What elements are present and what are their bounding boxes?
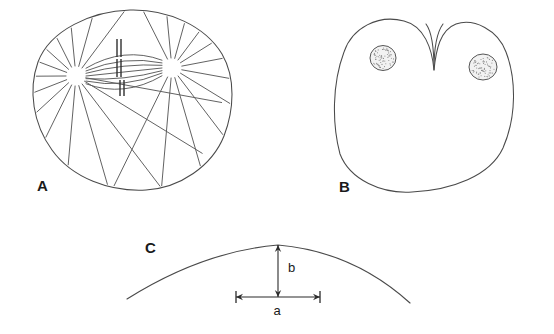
nucleus-stipple-dot xyxy=(479,68,480,69)
surface-arc xyxy=(127,245,410,303)
nucleus-stipple-dot xyxy=(377,52,378,53)
nucleus-stipple-dot xyxy=(393,58,394,59)
nucleus-stipple-dot xyxy=(475,61,476,62)
aster-ray xyxy=(182,70,229,79)
nucleus-stipple-dot xyxy=(381,55,382,56)
panel-label-c: C xyxy=(145,239,156,256)
nucleus-stipple-dot xyxy=(483,58,484,59)
aster-ray xyxy=(144,12,168,59)
nucleus-stipple-dot xyxy=(390,54,391,55)
nucleus-stipple-dot xyxy=(478,74,479,75)
nucleus-stipple-dot xyxy=(482,70,483,71)
panel-c-group: b a C xyxy=(127,239,410,318)
nucleus-stipple-dot xyxy=(487,64,488,65)
nucleus-stipple-dot xyxy=(475,65,476,66)
nucleus-stipple-dot xyxy=(379,67,380,68)
panel-a-group: A xyxy=(33,10,232,194)
nucleus-stipple-dot xyxy=(374,54,375,55)
nucleus-stipple-dot xyxy=(388,50,389,51)
nucleus-stipple-dot xyxy=(489,72,490,73)
nucleus-stipple-dot xyxy=(390,65,391,66)
aster-ray xyxy=(114,77,168,186)
nucleus-stipple-dot xyxy=(380,59,381,60)
nucleus-stipple-dot xyxy=(492,60,493,61)
nucleus-stipple-dot xyxy=(480,72,481,73)
nucleus-stipple-dot xyxy=(378,56,379,57)
nucleus-stipple-dot xyxy=(384,56,385,57)
nucleus-stipple-dot xyxy=(490,66,491,67)
nucleus-stipple-dot xyxy=(379,60,380,61)
aster-ray xyxy=(68,86,75,165)
nucleus-stipple-dot xyxy=(484,71,485,72)
nucleus-stipple-dot xyxy=(387,57,388,58)
nucleus-stipple-dot xyxy=(386,48,387,49)
nucleus-stipple-dot xyxy=(486,61,487,62)
nucleus-stipple-dot xyxy=(384,66,385,67)
aster-ray xyxy=(57,39,71,68)
nucleus-stipple-dot xyxy=(374,53,375,54)
nucleus-stipple-dot xyxy=(477,63,478,64)
nucleus-stipple-dot xyxy=(381,58,382,59)
nucleus-stipple-dot xyxy=(388,52,389,53)
aster-ray xyxy=(182,58,222,66)
dimension-label-a: a xyxy=(273,303,281,318)
nucleus-stipple-dot xyxy=(481,67,482,68)
nucleus-stipple-dot xyxy=(483,71,484,72)
nucleus-stipple-dot xyxy=(386,49,387,50)
panel-label-b: B xyxy=(339,178,350,195)
nucleus-stipple-dot xyxy=(487,65,488,66)
nucleus-stipple-dot xyxy=(472,70,473,71)
cleavage-furrow xyxy=(426,24,443,70)
nucleus-stipple-dot xyxy=(374,64,375,65)
nucleus-stipple-dot xyxy=(389,56,390,57)
nucleus-stipple-dot xyxy=(483,63,484,64)
nucleus-stipple-dot xyxy=(376,63,377,64)
figure-container: A B b a C xyxy=(0,0,554,334)
panel-label-a: A xyxy=(37,177,48,194)
aster-ray xyxy=(175,78,201,166)
nucleus-stipple-dot xyxy=(391,58,392,59)
nucleus-stipple-dot xyxy=(389,63,390,64)
nucleus-stipple-dot xyxy=(492,73,493,74)
nucleus-stipple-dot xyxy=(390,51,391,52)
dimension-label-b: b xyxy=(288,260,295,275)
nucleus-stipple-dot xyxy=(384,61,385,62)
nucleus-stipple-dot xyxy=(493,69,494,70)
aster-ray xyxy=(85,81,203,153)
aster-ray xyxy=(162,78,171,186)
nucleus-stipple-dot xyxy=(490,67,491,68)
nucleus-stipple-dot xyxy=(375,50,376,51)
aster-right-rays xyxy=(114,12,230,186)
nucleus-stipple-dot xyxy=(385,63,386,64)
nucleus-stipple-dot xyxy=(383,49,384,50)
figure-canvas: A B b a C xyxy=(0,0,554,334)
nucleus-stipple-dot xyxy=(375,59,376,60)
nucleus-stipple-dot xyxy=(491,63,492,64)
nucleus-stipple-dot xyxy=(383,60,384,61)
nucleus-stipple-dot xyxy=(484,76,485,77)
nucleus-stipple-dot xyxy=(489,75,490,76)
nucleus-stipple-dot xyxy=(473,62,474,63)
aster-left-rays xyxy=(35,12,222,186)
nucleus-stipple-dot xyxy=(378,65,379,66)
dimension-b-group xyxy=(275,245,281,297)
aster-ray xyxy=(86,78,222,103)
nucleus-stipple-dot xyxy=(484,69,485,70)
aster-ray xyxy=(71,28,75,66)
nucleus-stipple-dot xyxy=(383,47,384,48)
aster-ray xyxy=(79,19,92,67)
aster-ray xyxy=(37,83,69,112)
nucleus-stipple-dot xyxy=(385,50,386,51)
nucleus-stipple-dot xyxy=(387,54,388,55)
nucleus-stipple-dot xyxy=(388,55,389,56)
nucleus-stipple-dot xyxy=(375,57,376,58)
nucleus-stipple-dot xyxy=(474,66,475,67)
nucleus-stipple-dot xyxy=(484,68,485,69)
nucleus-stipple-dot xyxy=(380,57,381,58)
aster-ray xyxy=(181,43,212,62)
nucleus-stipple-dot xyxy=(481,75,482,76)
nucleus-stipple-dot xyxy=(489,70,490,71)
nucleus-stipple-dot xyxy=(488,74,489,75)
nucleus-stipple-dot xyxy=(373,63,374,64)
nucleus-stipple-dot xyxy=(480,59,481,60)
